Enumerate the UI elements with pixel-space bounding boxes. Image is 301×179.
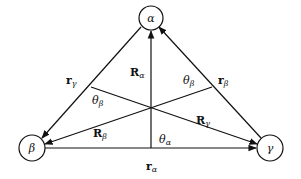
node-gamma-label: γ bbox=[267, 142, 274, 155]
label-R-beta: Rβ bbox=[93, 127, 107, 141]
label-theta-beta-right: θβ bbox=[183, 74, 195, 88]
label-r-gamma: rγ bbox=[66, 74, 77, 88]
label-R-gamma: Rγ bbox=[196, 114, 210, 128]
node-beta: β bbox=[19, 135, 45, 161]
label-R-alpha: Rα bbox=[130, 66, 145, 80]
label-r-alpha: rα bbox=[146, 160, 158, 174]
triangle-vector-diagram: α β γ rα rβ rγ Rα Rβ Rγ θα θβ θβ bbox=[0, 0, 301, 179]
node-gamma: γ bbox=[257, 135, 283, 161]
edge-r-beta bbox=[159, 27, 261, 138]
label-theta-alpha: θα bbox=[159, 133, 172, 147]
vector-R-beta bbox=[45, 87, 212, 144]
label-r-beta: rβ bbox=[218, 74, 229, 88]
vector-R-gamma bbox=[91, 87, 257, 144]
node-beta-label: β bbox=[28, 142, 35, 155]
label-theta-beta-left: θβ bbox=[92, 94, 104, 108]
edge-r-gamma bbox=[42, 27, 141, 138]
node-alpha-label: α bbox=[147, 12, 155, 25]
node-alpha: α bbox=[139, 6, 163, 30]
